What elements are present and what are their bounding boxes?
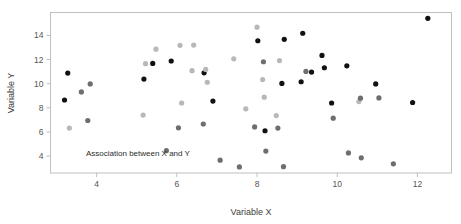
data-point <box>85 118 90 123</box>
data-point <box>262 95 267 100</box>
y-tick-label: 4 <box>39 151 44 161</box>
data-point <box>299 79 304 84</box>
data-point <box>344 63 349 68</box>
data-point <box>358 96 363 101</box>
y-tick-label: 10 <box>34 79 44 89</box>
data-point <box>177 43 182 48</box>
data-point <box>88 81 93 86</box>
x-axis-title: Variable X <box>231 207 272 217</box>
data-point <box>191 42 196 47</box>
data-point <box>322 65 327 70</box>
data-point <box>62 97 67 102</box>
data-point <box>169 58 174 63</box>
data-point <box>203 67 208 72</box>
data-point <box>255 38 260 43</box>
data-point <box>275 126 280 131</box>
data-point <box>243 106 248 111</box>
y-tick-label: 12 <box>34 55 44 65</box>
data-point <box>153 47 158 52</box>
data-point <box>237 164 242 169</box>
data-point <box>329 100 334 105</box>
x-tick-label: 8 <box>255 179 260 189</box>
x-tick-label: 4 <box>94 179 99 189</box>
y-tick-label: 14 <box>34 30 44 40</box>
data-point <box>150 61 155 66</box>
scatter-plot-figure: 468101214 4681012 Association between X … <box>0 0 461 224</box>
data-point <box>263 148 268 153</box>
plot-canvas: 468101214 4681012 Association between X … <box>0 0 461 224</box>
data-point <box>373 81 378 86</box>
data-point <box>260 77 265 82</box>
data-point <box>279 81 284 86</box>
figure-background <box>0 0 461 224</box>
data-point <box>300 31 305 36</box>
y-tick-label: 8 <box>39 103 44 113</box>
data-point <box>189 68 194 73</box>
data-point <box>346 150 351 155</box>
data-point <box>319 53 324 58</box>
chart-annotation: Association between X and Y <box>86 149 191 158</box>
data-point <box>281 164 286 169</box>
data-point <box>425 16 430 21</box>
data-point <box>252 124 257 129</box>
data-point <box>262 128 267 133</box>
data-point <box>141 112 146 117</box>
data-point <box>391 161 396 166</box>
data-point <box>331 116 336 121</box>
data-point <box>143 61 148 66</box>
data-point <box>141 77 146 82</box>
y-tick-label: 6 <box>39 127 44 137</box>
data-point <box>210 98 215 103</box>
data-point <box>79 89 84 94</box>
data-point <box>274 113 279 118</box>
data-point <box>282 37 287 42</box>
data-point <box>201 121 206 126</box>
data-point <box>303 69 308 74</box>
data-point <box>376 95 381 100</box>
data-point <box>410 100 415 105</box>
data-point <box>65 70 70 75</box>
data-point <box>205 80 210 85</box>
data-point <box>261 59 266 64</box>
data-point <box>67 126 72 131</box>
data-point <box>254 25 259 30</box>
x-tick-label: 12 <box>413 179 423 189</box>
data-point <box>176 125 181 130</box>
data-point <box>277 58 282 63</box>
y-axis-title: Variable Y <box>6 73 16 114</box>
data-point <box>359 155 364 160</box>
x-tick-label: 6 <box>174 179 179 189</box>
x-tick-label: 10 <box>332 179 342 189</box>
data-point <box>179 100 184 105</box>
data-point <box>218 158 223 163</box>
data-point <box>309 70 314 75</box>
data-point <box>231 56 236 61</box>
